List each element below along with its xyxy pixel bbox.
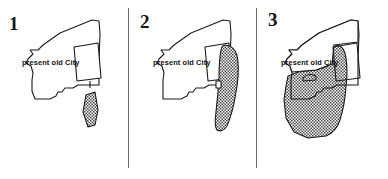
panel-1-map: present old City — [0, 0, 130, 179]
panel-1-city-label: present old City — [22, 58, 80, 67]
expansion-area-1 — [83, 92, 98, 127]
panel-1: 1 present old City — [0, 0, 130, 179]
panel-3-map: present old City — [258, 0, 388, 179]
panel-3: 3 present old City — [258, 0, 388, 179]
block-connector — [216, 81, 221, 88]
panel-2: 2 present old City — [130, 0, 258, 179]
growth-sequence-figure: 1 present old City 2 — [0, 0, 388, 179]
panel-divider-2 — [256, 8, 257, 168]
panel-2-city-label: present old City — [153, 58, 211, 67]
panel-2-map: present old City — [130, 0, 258, 179]
panel-divider-1 — [128, 8, 129, 168]
panel-3-city-label: present old City — [281, 58, 339, 67]
